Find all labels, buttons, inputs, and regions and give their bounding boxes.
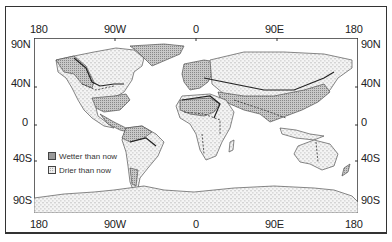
left-tick-0: 0	[22, 117, 28, 128]
bottom-tick-90e: 90E	[265, 219, 284, 230]
bottom-tick-180e: 180	[345, 219, 362, 230]
top-tick-180w: 180	[30, 24, 47, 35]
drier-swatch-icon	[48, 166, 56, 174]
top-tick-90e: 90E	[265, 24, 284, 35]
left-tick-40n: 40N	[11, 78, 30, 89]
legend-label-wetter: Wetter than now	[59, 152, 117, 161]
left-tick-90n: 90N	[11, 39, 30, 50]
bottom-tick-90w: 90W	[104, 219, 126, 230]
right-tick-0: 0	[361, 117, 367, 128]
legend-label-drier: Drier than now	[59, 166, 111, 175]
top-tick-180e: 180	[345, 24, 362, 35]
right-tick-90n: 90N	[361, 39, 380, 50]
left-tick-90s: 90S	[13, 195, 32, 206]
top-tick-0: 0	[193, 24, 199, 35]
right-tick-40s: 40S	[361, 153, 380, 164]
right-tick-90s: 90S	[361, 195, 380, 206]
top-tick-90w: 90W	[104, 24, 126, 35]
legend: Wetter than now Drier than now	[48, 150, 117, 178]
wetter-swatch-icon	[48, 152, 56, 160]
madagascar	[229, 140, 234, 152]
right-tick-40n: 40N	[361, 78, 380, 89]
left-tick-40s: 40S	[13, 153, 32, 164]
legend-item-drier: Drier than now	[48, 164, 117, 176]
legend-item-wetter: Wetter than now	[48, 150, 117, 162]
bottom-tick-0: 0	[193, 219, 199, 230]
bottom-tick-180w: 180	[30, 219, 47, 230]
world-map	[34, 38, 358, 213]
